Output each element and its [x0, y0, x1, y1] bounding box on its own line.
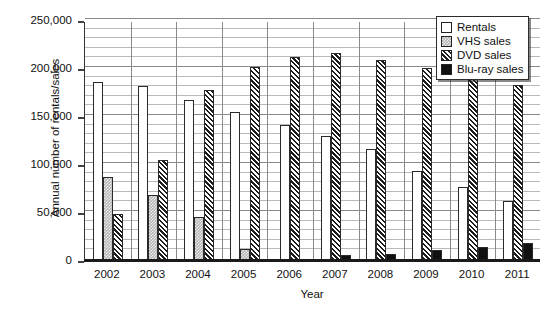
y-tick-label: 50,000 — [0, 206, 72, 218]
x-tick-label: 2011 — [494, 268, 540, 280]
legend-swatch-vhs — [441, 36, 452, 47]
x-tick-label: 2002 — [84, 268, 130, 280]
legend-swatch-rentals — [441, 22, 452, 33]
x-tick-label: 2008 — [358, 268, 404, 280]
legend-swatch-dvd — [441, 50, 452, 61]
bar-vhs — [194, 217, 204, 259]
bar-group — [359, 22, 405, 259]
x-axis-title: Year — [84, 288, 540, 300]
bar-group — [176, 22, 222, 259]
bar-dvd — [376, 60, 386, 259]
bar-bluray — [432, 250, 442, 259]
bar-rentals — [321, 136, 331, 259]
bar-rentals — [412, 171, 422, 259]
legend-label: DVD sales — [457, 49, 511, 61]
x-tick-label: 2004 — [175, 268, 221, 280]
bar-dvd — [468, 78, 478, 259]
bar-bluray — [386, 254, 396, 259]
bar-rentals — [93, 82, 103, 259]
y-tick-label: 200,000 — [0, 62, 72, 74]
legend-label: VHS sales — [457, 35, 511, 47]
bar-rentals — [230, 112, 240, 259]
bar-rentals — [138, 86, 148, 259]
bar-dvd — [158, 160, 168, 259]
bar-dvd — [422, 68, 432, 259]
bar-group — [85, 22, 131, 259]
bar-bluray — [478, 247, 488, 259]
y-tick-label: 100,000 — [0, 158, 72, 170]
y-axis-title: Annual number of rentals/sales — [49, 13, 61, 263]
bar-group — [267, 22, 313, 259]
x-tick-label: 2003 — [130, 268, 176, 280]
x-tick-label: 2005 — [221, 268, 267, 280]
bar-vhs — [103, 177, 113, 259]
bar-dvd — [113, 214, 123, 259]
legend-item: Rentals — [441, 20, 523, 34]
y-tick-label: 0 — [0, 254, 72, 266]
x-tick-label: 2007 — [312, 268, 358, 280]
bar-rentals — [280, 125, 290, 259]
legend-item: DVD sales — [441, 48, 523, 62]
legend-item: VHS sales — [441, 34, 523, 48]
bar-group — [222, 22, 268, 259]
x-tick-label: 2006 — [266, 268, 312, 280]
bar-rentals — [458, 187, 468, 259]
bar-dvd — [204, 90, 214, 259]
chart-legend: RentalsVHS salesDVD salesBlu-ray sales — [436, 16, 529, 80]
bar-dvd — [250, 67, 260, 259]
bar-rentals — [184, 100, 194, 259]
bar-bluray — [341, 255, 351, 259]
bar-bluray — [523, 243, 533, 259]
legend-label: Blu-ray sales — [457, 63, 523, 75]
bar-dvd — [331, 53, 341, 259]
legend-item: Blu-ray sales — [441, 62, 523, 76]
bar-chart: Annual number of rentals/sales 050,00010… — [0, 0, 556, 311]
bar-rentals — [503, 201, 513, 259]
legend-label: Rentals — [457, 21, 496, 33]
legend-swatch-bluray — [441, 64, 452, 75]
y-tick-label: 250,000 — [0, 14, 72, 26]
y-tick-label: 150,000 — [0, 110, 72, 122]
bar-rentals — [366, 149, 376, 259]
bar-dvd — [290, 57, 300, 259]
bar-dvd — [513, 85, 523, 259]
bar-vhs — [148, 195, 158, 259]
x-tick-label: 2009 — [403, 268, 449, 280]
x-tick-label: 2010 — [449, 268, 495, 280]
bar-vhs — [240, 249, 250, 259]
bar-group — [131, 22, 177, 259]
bar-group — [313, 22, 359, 259]
